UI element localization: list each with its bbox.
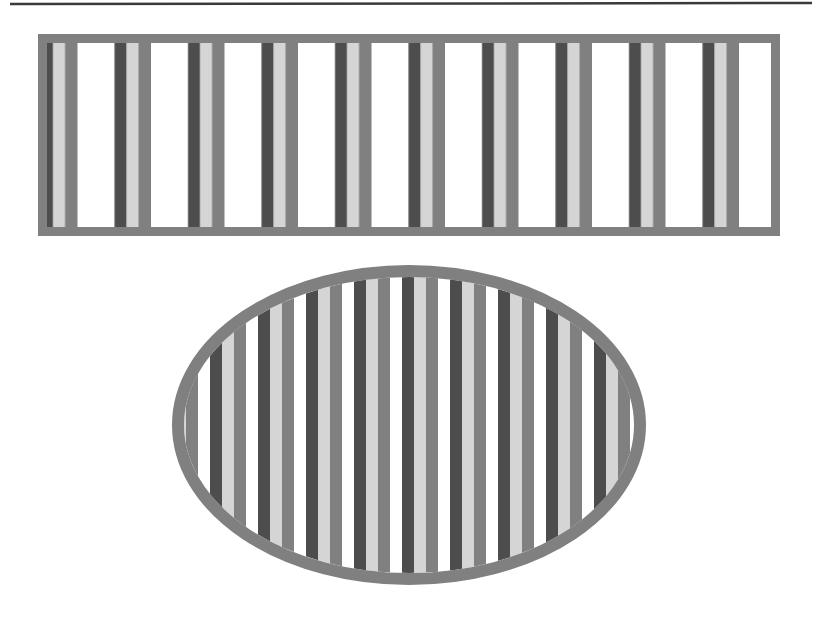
- striped-rectangle-group: [43, 39, 776, 232]
- figure-canvas: [0, 0, 817, 617]
- striped-rectangle-fill: [47, 43, 771, 227]
- striped-ellipse-group: [178, 271, 640, 579]
- striped-ellipse-fill: [184, 277, 634, 573]
- top-rule-line: [10, 3, 812, 4]
- figure-svg: [0, 0, 817, 617]
